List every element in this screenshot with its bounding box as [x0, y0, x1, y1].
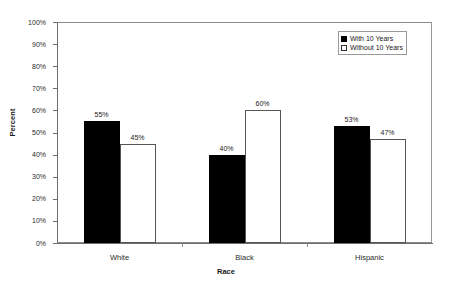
legend-label: With 10 Years	[350, 35, 393, 43]
y-axis-tick-mark	[53, 44, 57, 45]
x-axis-category-label: Black	[205, 254, 285, 262]
y-axis-line	[57, 22, 58, 244]
y-axis-tick-label: 70%	[0, 85, 46, 92]
y-axis-tick-label: 40%	[0, 151, 46, 158]
y-axis-tick-label: 20%	[0, 195, 46, 202]
bar-value-label: 60%	[238, 100, 288, 107]
bar-value-label: 55%	[77, 111, 127, 118]
x-axis-category-label: White	[80, 254, 160, 262]
x-axis-tick-mark	[182, 243, 183, 247]
y-axis-tick-mark	[53, 66, 57, 67]
legend-swatch-hollow-icon	[341, 45, 347, 51]
bar	[120, 144, 156, 243]
y-axis-tick-mark	[53, 221, 57, 222]
x-axis-category-label: Hispanic	[330, 254, 410, 262]
y-axis-tick-label: 60%	[0, 107, 46, 114]
y-axis-tick-mark	[53, 177, 57, 178]
x-axis-tick-mark	[307, 243, 308, 247]
bar	[370, 139, 406, 243]
y-axis-tick-mark	[53, 88, 57, 89]
legend-label: Without 10 Years	[350, 44, 403, 52]
y-axis-tick-label: 50%	[0, 129, 46, 136]
y-axis-tick-label: 0%	[0, 240, 46, 247]
y-axis-tick-mark	[53, 133, 57, 134]
bar-chart: Percent Race 100%90%80%70%60%50%40%30%20…	[0, 0, 452, 290]
bar-value-label: 47%	[363, 129, 413, 136]
bar	[334, 126, 370, 243]
y-axis-tick-mark	[53, 243, 57, 244]
y-axis-tick-mark	[53, 110, 57, 111]
bar	[209, 155, 245, 243]
x-axis-title: Race	[0, 267, 452, 276]
y-axis-tick-label: 10%	[0, 217, 46, 224]
y-axis-tick-label: 80%	[0, 63, 46, 70]
bar-value-label: 53%	[327, 116, 377, 123]
bar-value-label: 45%	[113, 134, 163, 141]
y-axis-tick-label: 30%	[0, 173, 46, 180]
y-axis-tick-label: 100%	[0, 19, 46, 26]
y-axis-tick-mark	[53, 155, 57, 156]
chart-legend: With 10 Years Without 10 Years	[338, 31, 407, 55]
bar	[245, 110, 281, 243]
y-axis-tick-mark	[53, 199, 57, 200]
legend-item-with-10-years: With 10 Years	[341, 34, 403, 43]
y-axis-tick-mark	[53, 22, 57, 23]
x-axis-line	[57, 243, 433, 244]
legend-item-without-10-years: Without 10 Years	[341, 43, 403, 52]
legend-swatch-filled-icon	[341, 36, 347, 42]
y-axis-tick-label: 90%	[0, 41, 46, 48]
y-axis-title: Percent	[8, 93, 17, 153]
